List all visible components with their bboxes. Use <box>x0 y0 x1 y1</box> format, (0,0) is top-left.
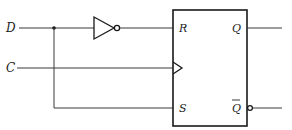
input-label-d: D <box>5 21 16 35</box>
port-label-q: Q <box>232 22 241 35</box>
port-label-r: R <box>178 22 187 35</box>
port-label-s: S <box>179 102 187 115</box>
inverter-bubble-icon <box>114 25 119 30</box>
q-bar-bubble-icon <box>248 106 253 111</box>
input-label-c: C <box>6 61 15 75</box>
inverter-triangle-icon <box>94 17 114 39</box>
port-label-q-bar: Q <box>232 102 241 115</box>
circuit-diagram: D C R S Q Q <box>0 0 292 130</box>
